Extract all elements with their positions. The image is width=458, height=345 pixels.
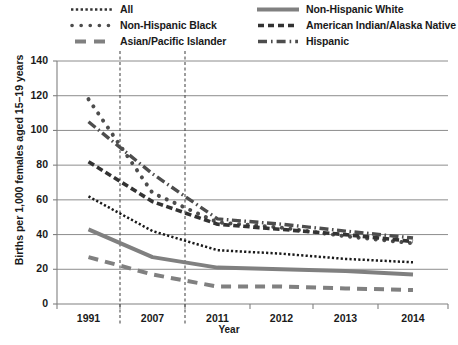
legend-label: Hispanic (306, 36, 349, 47)
series-line-american-indian-alaska-native (89, 162, 414, 242)
legend-swatch-round-dotted-icon (70, 20, 114, 31)
legend-item-non-hispanic-white: Non-Hispanic White (256, 2, 456, 17)
legend-item-american-indian-alaska-native: American Indian/Alaska Native (256, 18, 456, 33)
chart-figure: All Non-Hispanic Black Asian/Pacific Isl… (0, 0, 458, 345)
legend-swatch-dash-dot-icon (256, 36, 300, 47)
legend-item-hispanic: Hispanic (256, 34, 456, 49)
legend-label: Non-Hispanic Black (120, 20, 217, 31)
legend-column-left: All Non-Hispanic Black Asian/Pacific Isl… (70, 2, 226, 50)
legend-column-right: Non-Hispanic White American Indian/Alask… (256, 2, 456, 50)
legend-label: Asian/Pacific Islander (120, 36, 226, 47)
legend-label: All (120, 4, 133, 15)
legend-item-non-hispanic-black: Non-Hispanic Black (70, 18, 226, 33)
legend-swatch-long-dashed-icon (70, 36, 114, 47)
legend-swatch-solid-icon (256, 4, 300, 15)
chart-legend: All Non-Hispanic Black Asian/Pacific Isl… (0, 0, 458, 50)
legend-swatch-dashed-icon (256, 20, 300, 31)
legend-item-asian-pacific-islander: Asian/Pacific Islander (70, 34, 226, 49)
series-line-hispanic (89, 122, 414, 238)
legend-item-all: All (70, 2, 226, 17)
legend-label: Non-Hispanic White (306, 4, 403, 15)
legend-label: American Indian/Alaska Native (306, 20, 456, 31)
chart-plot-area: Births per 1,000 females aged 15–19 year… (0, 50, 458, 345)
chart-canvas (0, 50, 458, 345)
legend-swatch-fine-dotted-icon (70, 4, 114, 15)
